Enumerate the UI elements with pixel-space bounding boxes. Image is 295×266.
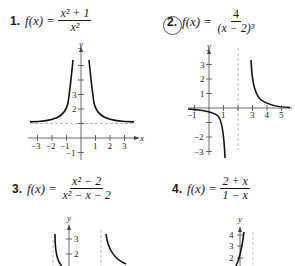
x-tick-label: −2: [46, 141, 56, 151]
x-tick-label: 3: [122, 141, 127, 151]
y-tick-label: 1: [200, 89, 205, 99]
x-axis-label: x: [139, 133, 144, 143]
y-tick-label: −1: [66, 148, 76, 158]
curve-left-branch: [55, 234, 62, 266]
x-tick-label: 4: [265, 110, 270, 120]
y-axis-label: y: [78, 39, 83, 49]
y-axis-label: y: [66, 213, 71, 223]
y-tick-label: 3: [72, 90, 77, 100]
y-tick-label: 3: [200, 60, 205, 70]
x-tick-label: 2: [108, 141, 113, 151]
y-tick-label: −2: [194, 132, 204, 142]
y-tick-label: 2: [74, 249, 79, 259]
x-tick-label: 3: [250, 110, 255, 120]
x-tick-label: 1: [221, 110, 226, 120]
graph-2: y −1 1 3 4 5 3 2 1 −2 −3: [187, 41, 292, 158]
x-tick-label: 1: [93, 141, 98, 151]
curve-left-branch: [30, 60, 73, 122]
y-axis-arrow-icon: [67, 224, 71, 230]
y-tick-label: 4: [229, 230, 234, 240]
x-tick-label: −1: [187, 110, 197, 120]
y-tick-label: −3: [194, 147, 204, 157]
curve-right-branch: [251, 60, 290, 108]
y-tick-label: 3: [74, 234, 79, 244]
curve-right-branch: [89, 60, 134, 122]
graph-4: y 4 3 2: [229, 214, 253, 266]
y-axis-label: y: [206, 41, 211, 51]
graph-1: x y −3 −2 −1 1 2 3 2 3 −1: [28, 39, 144, 160]
graphs-canvas: x y −3 −2 −1 1 2 3 2 3 −1 y −1 1 3 4 5 3: [0, 0, 295, 266]
y-axis-arrow-icon: [238, 226, 242, 232]
y-tick-label: 2: [200, 74, 205, 84]
graph-3: y 3 2: [53, 213, 126, 266]
y-tick-label: 3: [229, 241, 234, 251]
x-tick-label: −3: [31, 141, 41, 151]
y-tick-label: 2: [229, 253, 234, 263]
curve-right-branch: [106, 234, 126, 264]
y-tick-label: 2: [72, 104, 77, 114]
y-axis-label: y: [237, 214, 242, 224]
x-tick-label: 5: [279, 110, 284, 120]
